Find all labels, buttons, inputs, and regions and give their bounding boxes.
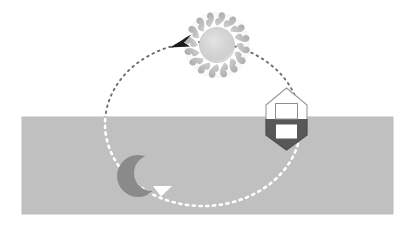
ground-band [22, 117, 393, 214]
house-upper-window [276, 104, 298, 120]
house-lower-window [276, 125, 297, 139]
sun-icon [184, 12, 251, 79]
day-night-cycle-illustration [0, 0, 414, 231]
moon-icon [112, 150, 164, 202]
diagram-canvas: Day and Night Cycle [0, 0, 414, 231]
